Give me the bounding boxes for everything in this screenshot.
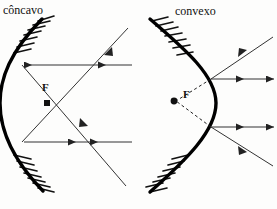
convex-reflected-ray-upper-arrow <box>236 76 244 83</box>
convex-virtual-extension-upper <box>176 79 211 101</box>
concave-mirror-group <box>0 16 132 192</box>
convex-mirror-group <box>146 17 274 192</box>
concave-focus-label: F <box>42 82 49 93</box>
convex-incident-ray-upper <box>211 37 273 79</box>
concave-incident-ray-lower-arrow <box>90 139 98 146</box>
concave-focus-point <box>44 100 50 106</box>
convex-reflected-ray-lower-arrow <box>236 124 244 131</box>
convex-focus-label: F <box>183 89 190 100</box>
convex-virtual-extension-lower <box>176 101 211 127</box>
convex-incident-ray-lower <box>211 127 273 166</box>
convex-mirror-label: convexo <box>175 5 216 17</box>
concave-reflected-ray-upper-arrow <box>79 118 88 127</box>
convex-focus-point <box>171 98 178 105</box>
concave-reflected-ray-lower <box>22 28 128 142</box>
concave-incident-ray-upper-arrow <box>98 62 106 69</box>
mirror-diagrams-svg <box>0 0 277 209</box>
concave-mirror-label: côncavo <box>3 4 43 16</box>
convex-mirror-hatching-top <box>152 17 193 55</box>
concave-mirror-surface <box>0 19 43 191</box>
convex-mirror-surface <box>150 19 216 192</box>
optics-figure-canvas: côncavo convexo F F <box>0 0 277 209</box>
